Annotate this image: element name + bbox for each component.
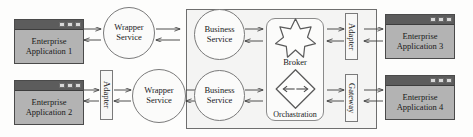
adapter-right-label: Adapter [347,23,357,50]
business-service-2[interactable]: Business Service [194,70,245,121]
enterprise-application-3[interactable]: Enterprise Application 3 [385,14,455,59]
broker-label: Broker [266,57,324,67]
minimize-icon [59,83,65,88]
window-body: Enterprise Application 4 [386,86,454,119]
business-service-1[interactable]: Business Service [194,9,245,60]
broker-star-icon [272,18,319,58]
wrapper-label-line2: Service [146,96,172,106]
wrapper-service-1[interactable]: Wrapper Service [103,7,155,59]
maximize-icon [438,17,444,22]
minimize-icon [430,17,436,22]
wrapper-label-line2: Service [116,33,142,43]
window-titlebar [15,20,83,30]
business-label-line2: Service [207,35,233,45]
maximize-icon [67,83,73,88]
wrapper-service-2[interactable]: Wrapper Service [132,69,186,123]
enterprise-application-4[interactable]: Enterprise Application 4 [385,75,455,120]
window-titlebar [386,76,454,86]
adapter-right[interactable]: Adapter [345,13,358,60]
app-label-line2: Application 3 [397,42,444,52]
close-icon [446,78,452,83]
minimize-icon [59,22,65,27]
window-body: Enterprise Application 1 [15,30,83,63]
maximize-icon [67,22,73,27]
app-label-line2: Application 1 [26,47,73,57]
maximize-icon [438,78,444,83]
architecture-diagram: Enterprise Application 1 Enterprise Appl… [0,0,473,137]
close-icon [446,17,452,22]
app-label-line2: Application 4 [397,103,444,113]
window-body: Enterprise Application 3 [386,25,454,58]
business-label-line2: Service [207,96,233,106]
adapter-left-label: Adapter [102,81,112,108]
window-titlebar [15,81,83,91]
minimize-icon [430,78,436,83]
orchestration-label: Orchastration [262,110,328,119]
close-icon [75,83,81,88]
window-titlebar [386,15,454,25]
adapter-left[interactable]: Adapter [100,70,113,120]
gateway-label: Gateway [347,83,357,113]
enterprise-application-2[interactable]: Enterprise Application 2 [14,80,84,125]
app-label-line2: Application 2 [26,108,73,118]
close-icon [75,22,81,27]
gateway[interactable]: Gateway [345,74,358,122]
window-body: Enterprise Application 2 [15,91,83,124]
orchestration-diamond-icon [272,68,319,110]
enterprise-application-1[interactable]: Enterprise Application 1 [14,19,84,64]
